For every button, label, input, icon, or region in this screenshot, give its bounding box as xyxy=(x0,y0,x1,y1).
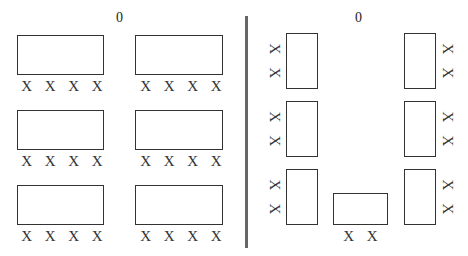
table-box xyxy=(17,110,104,150)
table-box xyxy=(286,169,318,225)
table-box xyxy=(333,193,388,225)
seat-row: XXXX xyxy=(15,153,109,170)
seat-column: XX xyxy=(268,37,282,85)
seat-row: XXXX xyxy=(134,78,228,95)
seat-row: XX xyxy=(337,228,384,245)
seat-marker: X xyxy=(62,153,86,170)
seat-marker: X xyxy=(205,153,229,170)
panel-divider xyxy=(245,16,248,248)
table-box xyxy=(135,35,223,75)
seat-marker: X xyxy=(181,78,205,95)
seat-marker: X xyxy=(361,228,385,245)
seat-row: XXXX xyxy=(15,228,109,245)
seat-marker: X xyxy=(158,78,182,95)
table-box xyxy=(404,169,436,225)
table-box xyxy=(135,185,223,225)
seat-marker: X xyxy=(205,228,229,245)
seat-marker: X xyxy=(263,66,287,80)
seat-column: XX xyxy=(441,105,455,153)
table-box xyxy=(404,101,436,157)
seat-marker: X xyxy=(62,78,86,95)
seat-marker: X xyxy=(263,110,287,124)
seat-marker: X xyxy=(436,42,460,56)
seat-marker: X xyxy=(181,228,205,245)
table-box xyxy=(404,33,436,89)
seat-marker: X xyxy=(15,228,39,245)
seat-marker: X xyxy=(15,153,39,170)
seat-marker: X xyxy=(15,78,39,95)
seat-marker: X xyxy=(39,228,63,245)
seat-marker: X xyxy=(263,42,287,56)
seat-marker: X xyxy=(263,202,287,216)
seat-row: XXXX xyxy=(15,78,109,95)
seat-marker: X xyxy=(436,66,460,80)
seat-marker: X xyxy=(134,228,158,245)
seat-row: XXXX xyxy=(134,153,228,170)
table-box xyxy=(286,101,318,157)
seat-marker: X xyxy=(337,228,361,245)
seat-marker: X xyxy=(158,228,182,245)
seat-marker: X xyxy=(134,78,158,95)
seat-marker: X xyxy=(158,153,182,170)
seat-row: XXXX xyxy=(134,228,228,245)
left-panel-label: 0 xyxy=(116,10,123,26)
seat-marker: X xyxy=(86,228,110,245)
seat-marker: X xyxy=(263,134,287,148)
right-panel-label: 0 xyxy=(355,10,362,26)
seat-marker: X xyxy=(181,153,205,170)
seat-marker: X xyxy=(39,153,63,170)
seat-column: XX xyxy=(441,173,455,221)
seat-marker: X xyxy=(205,78,229,95)
seat-marker: X xyxy=(86,78,110,95)
seat-marker: X xyxy=(436,134,460,148)
seat-column: XX xyxy=(268,105,282,153)
seat-marker: X xyxy=(39,78,63,95)
seat-marker: X xyxy=(436,178,460,192)
seat-column: XX xyxy=(441,37,455,85)
seat-marker: X xyxy=(62,228,86,245)
seat-marker: X xyxy=(263,178,287,192)
table-box xyxy=(17,35,104,75)
seat-marker: X xyxy=(436,110,460,124)
seat-marker: X xyxy=(134,153,158,170)
seat-marker: X xyxy=(436,202,460,216)
table-box xyxy=(286,33,318,89)
seat-marker: X xyxy=(86,153,110,170)
table-box xyxy=(17,185,104,225)
seat-column: XX xyxy=(268,173,282,221)
table-box xyxy=(135,110,223,150)
